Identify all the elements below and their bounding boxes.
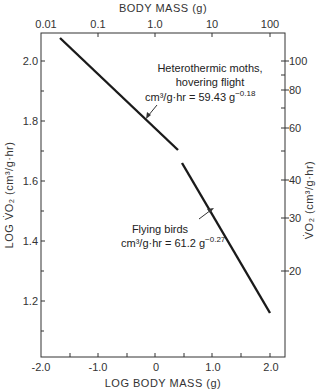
right-tick-label: 60	[289, 122, 301, 134]
left-tick-label: 2.0	[23, 55, 38, 67]
moth-label-line2: hovering flight	[176, 76, 245, 88]
top-axis-title: BODY MASS (g)	[119, 2, 207, 14]
left-axis-title: LOG V̇O₂ (cm³/g·hr)	[3, 142, 15, 249]
bird-label: Flying birds	[132, 223, 189, 235]
plot-frame	[41, 33, 285, 357]
left-tick-label: 1.2	[23, 295, 38, 307]
bird-equation: cm³/g·hr = 61.2 g−0.27	[121, 235, 226, 249]
right-tick-label: 30	[289, 212, 301, 224]
chart: BODY MASS (g) 0.01 0.1 1.0 10 100 -2.0 -…	[0, 0, 321, 391]
moth-label-line1: Heterothermic moths,	[157, 62, 262, 74]
left-tick-label: 1.8	[23, 115, 38, 127]
moth-equation: cm³/g·hr = 59.43 g−0.18	[145, 89, 256, 103]
left-axis: 2.0 1.8 1.6 1.4 1.2	[23, 55, 45, 331]
left-tick-label: 1.4	[23, 235, 38, 247]
right-tick-label: 20	[289, 265, 301, 277]
bottom-tick-label: 2.0	[263, 361, 278, 373]
moth-annotation: Heterothermic moths, hovering flight cm³…	[145, 62, 263, 119]
bottom-axis: -2.0 -1.0 0 1.0 2.0	[32, 353, 279, 373]
right-tick-label: 40	[289, 174, 301, 186]
top-axis: 0.01 0.1 1.0 10 100	[35, 18, 279, 37]
bottom-axis-title: LOG BODY MASS (g)	[105, 377, 222, 389]
top-tick-label: 10	[206, 18, 218, 30]
right-axis-title: V̇O₂ (cm³/g·hr)	[303, 161, 315, 240]
right-tick-label: 100	[289, 55, 307, 67]
top-tick-label: 0.01	[35, 18, 56, 30]
right-tick-label: 80	[289, 84, 301, 96]
left-tick-label: 1.6	[23, 175, 38, 187]
bottom-tick-label: -1.0	[89, 361, 108, 373]
bird-annotation: Flying birds cm³/g·hr = 61.2 g−0.27	[121, 208, 226, 249]
top-tick-label: 1.0	[147, 18, 162, 30]
bottom-tick-label: -2.0	[32, 361, 51, 373]
top-tick-label: 100	[261, 18, 279, 30]
bottom-tick-label: 0	[153, 361, 159, 373]
bottom-tick-label: 1.0	[205, 361, 220, 373]
top-tick-label: 0.1	[90, 18, 105, 30]
